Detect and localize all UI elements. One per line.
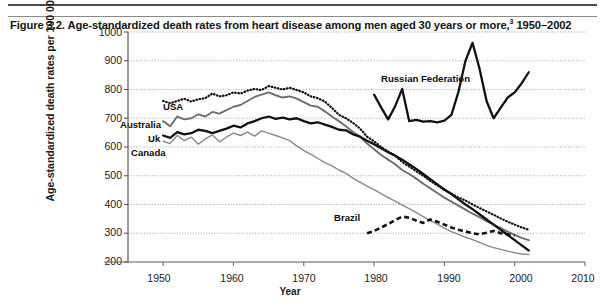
figure-container: Figure 3.2. Age-standardized death rates… — [0, 0, 603, 307]
axis-lines — [104, 32, 585, 266]
chart-plot-area — [0, 0, 603, 307]
series-paths — [163, 43, 529, 255]
gridlines — [128, 32, 585, 262]
